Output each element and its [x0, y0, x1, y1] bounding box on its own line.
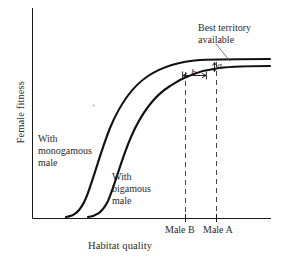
x-tick-label-male-b: Male B [165, 224, 195, 236]
curve-monogamous-male [66, 59, 270, 217]
x-axis-title: Habitat quality [88, 240, 152, 252]
scan-speck [92, 104, 94, 106]
polygyny-threshold-figure: Female fitness Habitat quality Best terr… [0, 0, 288, 260]
curve-label-monogamous: With monogamous male [38, 133, 92, 170]
measure-a-label: a [217, 60, 222, 72]
x-tick-label-male-a: Male A [203, 224, 233, 236]
measure-b-label: b [191, 67, 196, 79]
measure-a-arrow [213, 63, 217, 72]
curve-label-bigamous: With bigamous male [112, 171, 151, 208]
best-territory-annotation: Best territory available [198, 22, 251, 46]
y-axis-title: Female fitness [15, 57, 27, 167]
